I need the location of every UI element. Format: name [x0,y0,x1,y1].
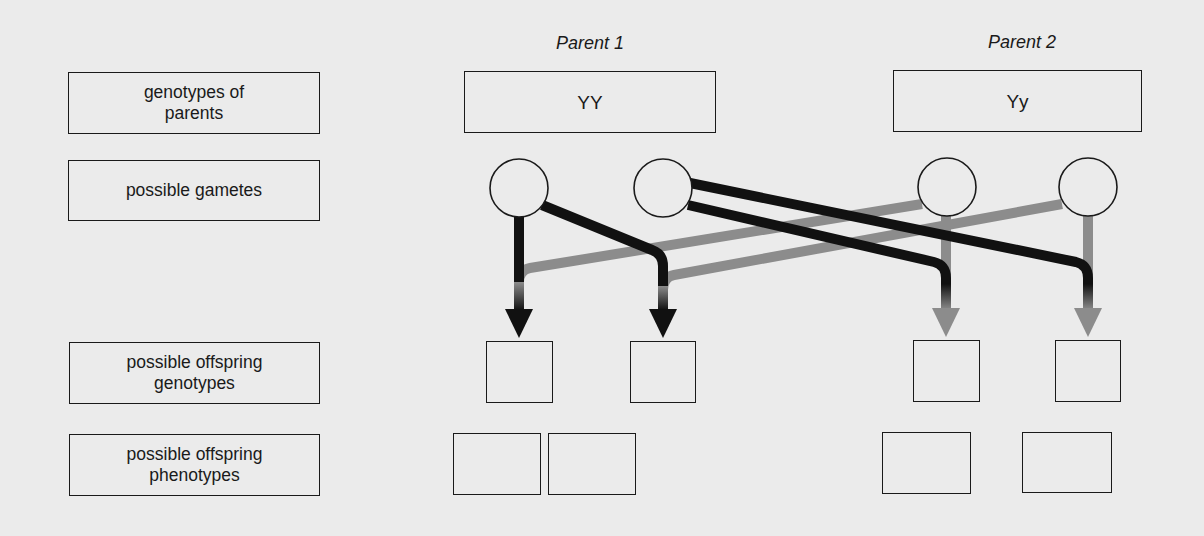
arrowhead-offspring-2 [649,309,677,338]
offspring-phenotype-box-4[interactable] [1022,432,1112,493]
genetic-cross-diagram: genotypes of parents possible gametes po… [0,0,1204,536]
offspring-phenotype-box-1[interactable] [453,433,541,495]
parent-1-lines [519,183,1088,292]
arrowhead-offspring-3 [932,308,960,337]
arrowhead-offspring-4 [1074,308,1102,337]
offspring-phenotype-box-2[interactable] [548,433,636,495]
gamete-circle-1 [490,159,548,217]
offspring-genotype-box-2[interactable] [630,341,696,403]
gamete-circle-4 [1059,158,1117,216]
offspring-genotype-box-4[interactable] [1055,340,1121,402]
offspring-genotype-box-3[interactable] [913,340,980,402]
offspring-genotype-box-1[interactable] [486,341,553,403]
gamete-circle-2 [634,159,692,217]
offspring-phenotype-box-3[interactable] [882,432,971,494]
gamete-circle-3 [918,158,976,216]
arrowhead-offspring-1 [505,309,533,338]
